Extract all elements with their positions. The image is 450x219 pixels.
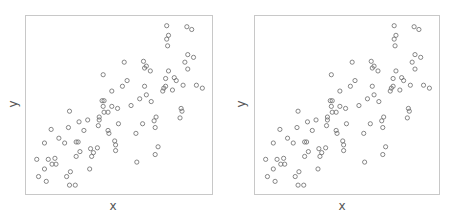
data-point [348,84,352,88]
data-point [166,44,170,48]
data-point [134,131,138,135]
data-point [82,128,86,132]
data-point [394,69,398,73]
data-point [275,157,279,161]
data-point [138,97,142,101]
data-point [265,174,269,178]
data-point [97,118,101,122]
data-point [370,84,374,88]
data-point [381,125,385,129]
data-point [271,167,275,171]
data-point [316,167,320,171]
scatter-panel-left: y x [0,0,225,219]
y-axis-label-right: y [234,98,248,110]
data-point [88,147,92,151]
data-point [325,118,329,122]
data-point [353,78,357,82]
data-point [338,89,342,93]
data-point [362,131,366,135]
data-point [310,128,314,132]
data-point [141,59,145,63]
data-point [140,122,144,126]
data-point [278,127,282,131]
data-point [166,69,170,73]
data-point [164,76,168,80]
data-point [178,116,182,120]
data-point [101,73,105,77]
data-point [186,67,190,71]
data-point [343,106,347,110]
data-point [365,97,369,101]
data-point [66,125,70,129]
data-point [191,55,195,59]
data-point [406,106,410,110]
data-point [135,160,139,164]
data-point [183,60,187,64]
data-point [372,93,376,97]
data-point [42,167,46,171]
data-point [78,150,82,154]
data-point [407,109,411,113]
y-axis-label-left: y [6,98,20,110]
data-point [113,148,117,152]
data-point [113,143,117,147]
data-point [317,147,321,151]
data-point [170,88,174,92]
data-point [96,124,100,128]
data-point [264,157,268,161]
data-point [179,106,183,110]
data-point [65,174,69,178]
data-point [271,141,275,145]
data-point [338,104,342,108]
data-point [110,104,114,108]
data-point [376,69,380,73]
data-point [324,146,328,150]
data-point [36,174,40,178]
scatter-panel-right: y x [225,0,450,219]
data-point [282,156,286,160]
data-point [95,146,99,150]
data-point [398,88,402,92]
data-point [273,179,277,183]
data-point [116,122,120,126]
data-point [391,76,395,80]
data-point [46,157,50,161]
data-point [49,127,53,131]
data-point [194,83,198,87]
data-point [156,145,160,149]
data-point [341,139,345,143]
data-point [67,109,71,113]
x-axis-label-left: x [107,199,119,213]
data-point [149,99,153,103]
data-point [405,116,409,120]
data-point [303,154,307,158]
data-point [110,89,114,93]
data-point [180,109,184,113]
data-point [115,106,119,110]
data-point [419,55,423,59]
data-point [53,156,57,160]
data-point [181,83,185,87]
x-axis-label-right: x [336,199,348,213]
data-point [153,125,157,129]
data-point [413,67,417,71]
data-point [73,183,77,187]
data-point [88,167,92,171]
data-point [342,148,346,152]
data-point [421,83,425,87]
data-point [86,118,90,122]
data-point [393,44,397,48]
data-point [101,104,105,108]
data-point [165,37,169,41]
data-point [410,60,414,64]
data-point [350,60,354,64]
data-point [165,24,169,28]
data-point [305,120,309,124]
scatter-points-left [25,15,213,195]
data-point [369,59,373,63]
data-point [291,141,295,145]
data-point [408,83,412,87]
data-point [380,119,384,123]
data-point [67,183,71,187]
data-point [74,154,78,158]
